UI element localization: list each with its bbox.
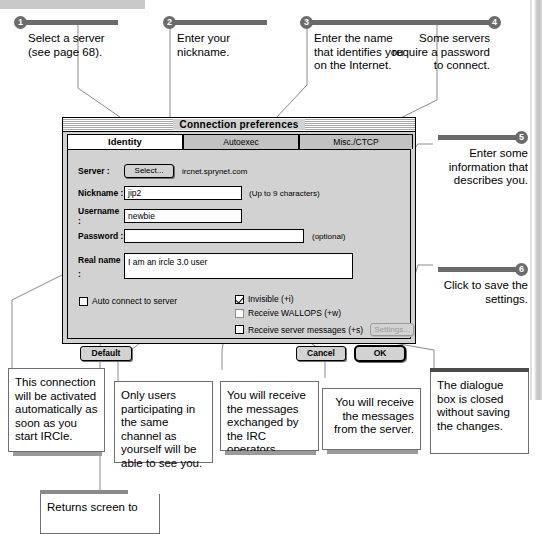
description-box-cancel: The dialogue box is closed without savin… <box>430 372 529 454</box>
callout-6-marker: 6 <box>438 263 528 276</box>
description-box-server-messages: You will receive the messages from the s… <box>322 388 421 450</box>
tab-label: Autoexec <box>223 137 258 147</box>
description-box-auto-connect: This connection will be activated automa… <box>8 368 105 452</box>
description-text: You will receive the messages exchanged … <box>227 389 306 455</box>
callout-bar <box>438 135 516 140</box>
username-row: Username : newbie <box>78 206 242 226</box>
checkbox-label: Receive server messages (+s) <box>248 325 363 335</box>
checkbox-invisible[interactable]: Invisible (+i) <box>235 294 294 304</box>
callout-4-text: Some servers require a password to conne… <box>360 32 490 73</box>
description-text: Only users participating in the same cha… <box>121 389 202 469</box>
description-accent-bar <box>225 451 316 455</box>
callout-5-text: Enter some information that describes yo… <box>424 147 528 188</box>
callout-2-text: Enter your nickname. <box>177 32 297 59</box>
checkbox-label: Receive WALLOPS (+w) <box>248 308 341 318</box>
checkbox-box <box>235 295 244 304</box>
connection-preferences-dialog: Connection preferences Identity Autoexec… <box>62 117 416 344</box>
username-label: Username : <box>78 206 124 226</box>
nickname-input[interactable]: jip2 <box>124 186 242 200</box>
description-accent-bar <box>13 452 102 456</box>
server-value: ircnet.sprynet.com <box>182 167 247 176</box>
cancel-button[interactable]: Cancel <box>296 346 346 361</box>
checkbox-box <box>235 309 244 318</box>
checkbox-auto-connect[interactable]: Auto connect to server <box>79 296 177 306</box>
server-select-button[interactable]: Select... <box>124 164 174 178</box>
tab-misc-ctcp[interactable]: Misc./CTCP <box>299 134 413 149</box>
description-box-invisible: Only users participating in the same cha… <box>114 381 213 463</box>
tab-label: Identity <box>108 136 142 147</box>
password-row: Password : (optional) <box>78 229 345 243</box>
page-edge-right-strip-inner <box>530 0 532 400</box>
nickname-label: Nickname : <box>78 188 124 198</box>
tab-autoexec[interactable]: Autoexec <box>183 134 299 149</box>
callout-5-marker: 5 <box>438 131 528 144</box>
callout-1-marker: 1 <box>14 16 118 29</box>
realname-input[interactable]: I am an ircle 3.0 user <box>124 253 353 279</box>
nickname-hint: (Up to 9 characters) <box>249 189 320 198</box>
callout-bar <box>26 20 118 25</box>
settings-button[interactable]: Settings... <box>370 323 414 336</box>
description-text: Returns screen to <box>47 501 138 513</box>
tab-panel-identity: Server : Select... ircnet.sprynet.com Ni… <box>67 149 411 339</box>
callout-bar <box>312 20 404 25</box>
callout-bar <box>397 20 489 25</box>
password-hint: (optional) <box>312 232 345 241</box>
callout-2-marker: 2 <box>163 16 267 29</box>
description-box-default: Returns screen to <box>40 494 160 534</box>
callout-1-text: Select a server (see page 68). <box>28 32 148 59</box>
dialog-title: Connection preferences <box>173 119 306 130</box>
ok-button[interactable]: OK <box>354 345 406 362</box>
callout-bar <box>175 20 267 25</box>
callout-number: 1 <box>14 16 27 29</box>
description-accent-bar <box>327 450 418 454</box>
server-label: Server : <box>78 166 124 176</box>
checkbox-label: Invisible (+i) <box>248 294 294 304</box>
description-accent-bar <box>40 490 128 494</box>
checkbox-receive-wallops[interactable]: Receive WALLOPS (+w) <box>235 308 341 318</box>
tab-identity[interactable]: Identity <box>67 134 183 149</box>
description-text: This connection will be activated automa… <box>15 376 97 442</box>
callout-4-marker: 4 <box>397 16 501 29</box>
callout-bar <box>438 267 516 272</box>
description-box-wallops: You will receive the messages exchanged … <box>220 381 319 451</box>
page-edge-right-strip <box>534 0 542 400</box>
password-input[interactable] <box>124 229 304 243</box>
checkbox-receive-server-messages[interactable]: Receive server messages (+s) Settings... <box>235 323 414 336</box>
callout-number: 5 <box>515 131 528 144</box>
callout-number: 3 <box>300 16 313 29</box>
realname-row: Real name : I am an ircle 3.0 user <box>78 253 353 281</box>
realname-label: Real name : <box>78 253 124 281</box>
callout-6-text: Click to save the settings. <box>424 279 528 306</box>
tab-label: Misc./CTCP <box>333 137 378 147</box>
description-text: You will receive the messages from the s… <box>334 396 414 435</box>
checkbox-label: Auto connect to server <box>92 296 177 306</box>
checkbox-box <box>79 297 88 306</box>
checkbox-box <box>235 325 244 334</box>
username-input[interactable]: newbie <box>124 209 242 223</box>
page-edge-top-bar <box>0 0 145 9</box>
server-row: Server : Select... ircnet.sprynet.com <box>78 164 247 178</box>
tab-strip: Identity Autoexec Misc./CTCP <box>63 134 415 149</box>
nickname-row: Nickname : jip2 (Up to 9 characters) <box>78 186 320 200</box>
description-text: The dialogue box is closed without savin… <box>437 379 510 432</box>
callout-number: 6 <box>515 263 528 276</box>
callout-3-marker: 3 <box>300 16 404 29</box>
default-button[interactable]: Default <box>80 346 132 361</box>
callout-number: 2 <box>163 16 176 29</box>
password-label: Password : <box>78 231 124 241</box>
description-accent-bar <box>430 368 529 372</box>
callout-number: 4 <box>488 16 501 29</box>
dialog-titlebar[interactable]: Connection preferences <box>63 118 415 132</box>
